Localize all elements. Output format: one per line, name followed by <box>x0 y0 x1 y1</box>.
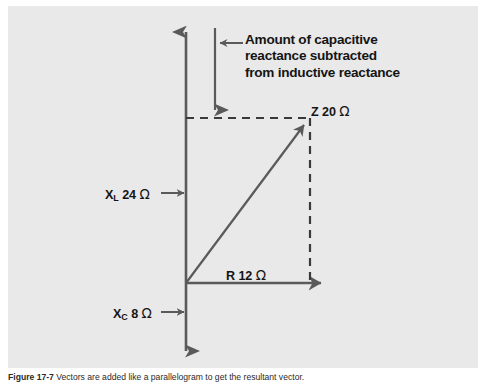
capacitive-subtraction-annotation: Amount of capacitive reactance subtracte… <box>245 32 460 81</box>
figure-caption-body: Vectors are added like a parallelogram t… <box>56 372 304 382</box>
resistance-label: R 12 Ω <box>226 267 266 283</box>
impedance-vector-z <box>186 125 304 283</box>
figure-caption: Figure 17-7 Vectors are added like a par… <box>8 372 478 382</box>
capacitive-reactance-unit: Ω <box>142 305 152 321</box>
inductive-reactance-value: 24 <box>122 188 136 202</box>
inductive-reactance-label: XL 24 Ω <box>105 186 150 203</box>
inductive-reactance-subscript: L <box>113 193 119 203</box>
impedance-symbol: Z <box>311 105 319 119</box>
impedance-value: 20 <box>322 105 336 119</box>
impedance-unit: Ω <box>339 103 349 119</box>
capacitive-reactance-subscript: C <box>121 312 128 322</box>
resistance-unit: Ω <box>256 267 266 283</box>
resistance-value: 12 <box>238 269 252 283</box>
resistance-symbol: R <box>226 269 235 283</box>
impedance-label: Z 20 Ω <box>311 103 349 119</box>
diagram-panel: Amount of capacitive reactance subtracte… <box>8 6 478 368</box>
figure-root: Amount of capacitive reactance subtracte… <box>0 0 487 384</box>
capacitive-reactance-value: 8 <box>131 307 138 321</box>
inductive-reactance-unit: Ω <box>139 186 149 202</box>
figure-caption-number: Figure 17-7 <box>8 372 54 382</box>
capacitive-reactance-label: XC 8 Ω <box>113 305 152 322</box>
